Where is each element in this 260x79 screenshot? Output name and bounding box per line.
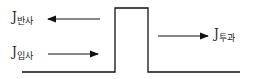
incident-flux-label: J입사 [12, 46, 33, 61]
reflected-flux-label: J반사 [12, 11, 33, 26]
transmitted-flux-label: J투과 [214, 28, 235, 43]
potential-barrier [22, 8, 240, 72]
label-sub: 투과 [219, 33, 235, 43]
label-sub: 반사 [17, 16, 33, 26]
label-sub: 입사 [17, 51, 33, 61]
